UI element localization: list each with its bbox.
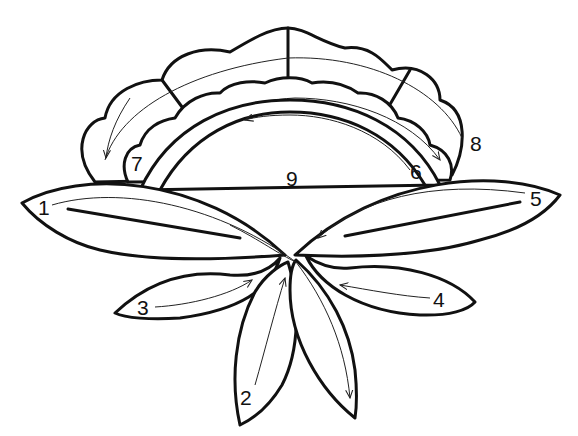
- label-1: 1: [38, 197, 50, 218]
- label-6: 6: [410, 161, 422, 182]
- label-4: 4: [433, 289, 445, 310]
- flower-diagram: [0, 0, 578, 436]
- leaf-1: [22, 184, 285, 259]
- label-3: 3: [137, 297, 149, 318]
- label-2: 2: [240, 387, 252, 408]
- label-9: 9: [286, 168, 298, 189]
- label-5: 5: [530, 188, 542, 209]
- label-8: 8: [470, 133, 482, 154]
- label-7: 7: [131, 153, 143, 174]
